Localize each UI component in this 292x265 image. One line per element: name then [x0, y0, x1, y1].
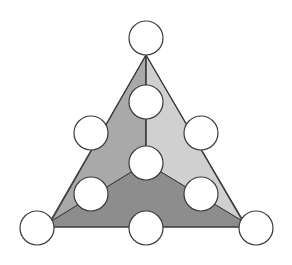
circle-left-lower[interactable] — [74, 177, 108, 211]
circle-right-lower[interactable] — [184, 177, 218, 211]
circle-top[interactable] — [129, 21, 163, 55]
circle-center[interactable] — [129, 146, 163, 180]
circle-bottom-right[interactable] — [239, 211, 273, 245]
circle-left-upper[interactable] — [74, 116, 108, 150]
circle-upper-middle[interactable] — [129, 85, 163, 119]
circle-right-upper[interactable] — [184, 116, 218, 150]
circle-bottom-left[interactable] — [20, 211, 54, 245]
triangle-diagram — [0, 0, 292, 265]
circle-bottom-middle[interactable] — [129, 211, 163, 245]
